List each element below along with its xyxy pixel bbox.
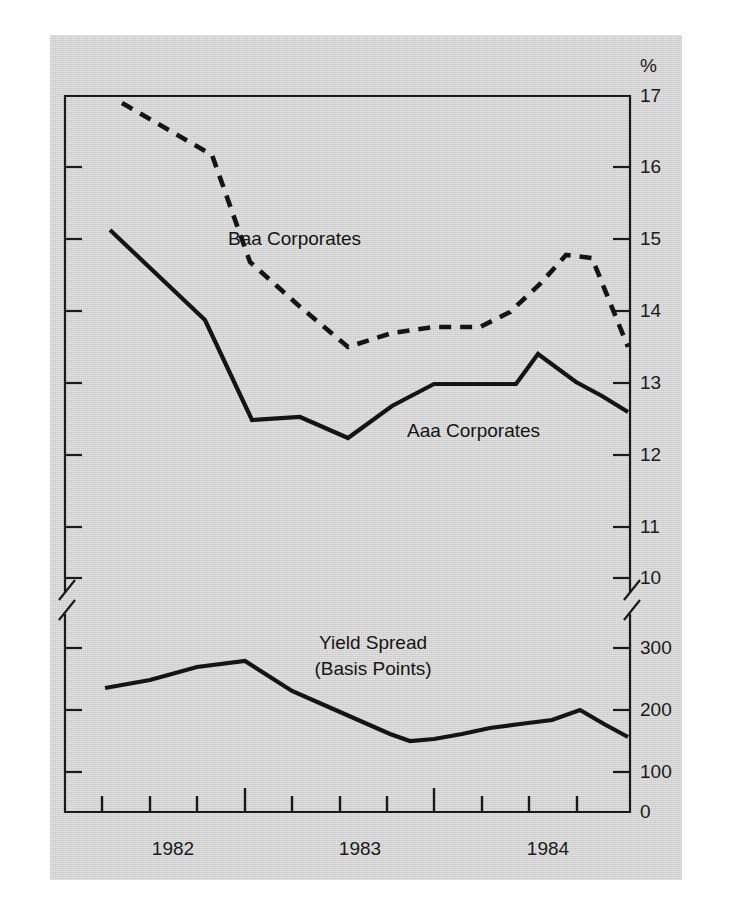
ytick-label-13: 13 (640, 372, 661, 394)
series-label-yield-spread-units: (Basis Points) (278, 658, 468, 680)
series-label-yield-spread: Yield Spread (278, 632, 468, 654)
ytick-label-11: 11 (640, 516, 660, 538)
ytick-label-10: 10 (640, 567, 661, 589)
ytick-label-17: 17 (640, 85, 661, 107)
ytick-label-200: 200 (640, 699, 672, 721)
y-axis-unit-label: % (640, 55, 657, 77)
ytick-label-0: 0 (640, 801, 651, 823)
series-label-baa: Baa Corporates (228, 228, 361, 250)
ytick-label-100: 100 (640, 761, 672, 783)
ytick-label-14: 14 (640, 300, 661, 322)
x-axis-ticks (102, 788, 577, 812)
xtick-label-1984: 1984 (508, 838, 588, 860)
chart-plot-svg (0, 0, 729, 909)
ytick-label-15: 15 (640, 228, 661, 250)
series-label-aaa: Aaa Corporates (407, 420, 540, 442)
xtick-label-1983: 1983 (320, 838, 400, 860)
series-line-aaa (110, 230, 628, 438)
ytick-label-12: 12 (640, 444, 661, 466)
ytick-label-300: 300 (640, 637, 672, 659)
chart-figure: % 17 16 15 14 13 12 11 10 300 200 100 0 … (0, 0, 729, 909)
ytick-label-16: 16 (640, 156, 661, 178)
xtick-label-1982: 1982 (133, 838, 213, 860)
axis-break-marks (59, 580, 640, 620)
